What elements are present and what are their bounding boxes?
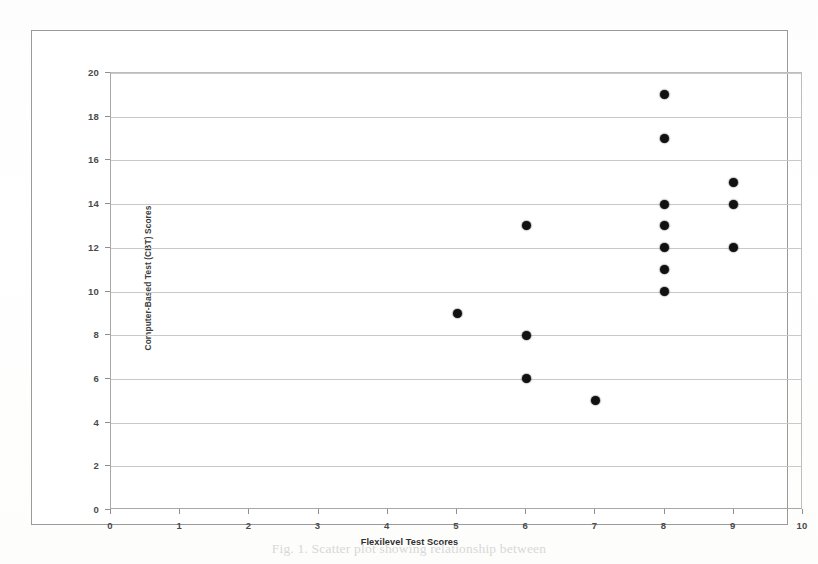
y-tick-label: 12 xyxy=(88,241,99,252)
x-tick-label: 4 xyxy=(384,520,389,531)
x-tick-mark xyxy=(664,509,665,514)
gridline-y xyxy=(111,379,801,380)
x-tick-label: 10 xyxy=(797,520,808,531)
data-point xyxy=(660,134,669,143)
x-tick-label: 3 xyxy=(315,520,320,531)
x-tick-mark xyxy=(594,509,595,514)
x-tick-mark xyxy=(802,509,803,514)
data-point xyxy=(453,309,462,318)
gridline-y xyxy=(111,117,801,118)
gridline-y xyxy=(111,466,801,467)
y-tick-mark xyxy=(105,247,110,248)
y-tick-label: 2 xyxy=(94,460,99,471)
y-tick-label: 4 xyxy=(94,416,99,427)
y-tick-mark xyxy=(105,159,110,160)
data-point xyxy=(591,396,600,405)
y-tick-label: 8 xyxy=(94,329,99,340)
y-tick-label: 16 xyxy=(88,154,99,165)
x-tick-mark xyxy=(387,509,388,514)
y-tick-mark xyxy=(105,334,110,335)
gridline-y xyxy=(111,335,801,336)
data-point xyxy=(660,200,669,209)
data-point xyxy=(729,243,738,252)
gridline-y xyxy=(111,160,801,161)
gridline-y xyxy=(111,73,801,74)
x-tick-label: 1 xyxy=(176,520,181,531)
x-tick-label: 2 xyxy=(246,520,251,531)
y-tick-mark xyxy=(105,422,110,423)
y-tick-mark xyxy=(105,378,110,379)
y-tick-mark xyxy=(105,465,110,466)
data-point xyxy=(660,287,669,296)
gridline-y xyxy=(111,423,801,424)
data-point xyxy=(660,90,669,99)
x-tick-label: 5 xyxy=(453,520,458,531)
x-tick-mark xyxy=(525,509,526,514)
data-point xyxy=(729,200,738,209)
gridline-y xyxy=(111,248,801,249)
y-tick-label: 6 xyxy=(94,372,99,383)
x-tick-mark xyxy=(733,509,734,514)
x-tick-mark xyxy=(318,509,319,514)
data-point xyxy=(522,374,531,383)
x-tick-mark xyxy=(110,509,111,514)
y-tick-label: 18 xyxy=(88,110,99,121)
scatter-plot-area xyxy=(110,72,802,509)
gridline-y xyxy=(111,204,801,205)
y-tick-mark xyxy=(105,203,110,204)
gridline-y xyxy=(111,292,801,293)
y-tick-mark xyxy=(105,72,110,73)
y-tick-mark xyxy=(105,291,110,292)
x-tick-mark xyxy=(456,509,457,514)
x-tick-label: 0 xyxy=(107,520,112,531)
x-tick-label: 8 xyxy=(661,520,666,531)
data-point xyxy=(522,331,531,340)
y-tick-label: 10 xyxy=(88,285,99,296)
data-point xyxy=(660,265,669,274)
figure-frame: Computer-Based Test (CBT) Scores 0246810… xyxy=(31,30,788,525)
data-point xyxy=(660,221,669,230)
data-point xyxy=(729,178,738,187)
y-tick-label: 0 xyxy=(94,504,99,515)
x-tick-label: 6 xyxy=(522,520,527,531)
y-tick-mark xyxy=(105,116,110,117)
x-tick-label: 9 xyxy=(730,520,735,531)
y-tick-label: 14 xyxy=(88,198,99,209)
x-tick-mark xyxy=(179,509,180,514)
data-point xyxy=(660,243,669,252)
x-tick-label: 7 xyxy=(592,520,597,531)
x-tick-mark xyxy=(248,509,249,514)
y-tick-label: 20 xyxy=(88,67,99,78)
figure-caption: Fig. 1. Scatter plot showing relationshi… xyxy=(0,541,818,557)
data-point xyxy=(522,221,531,230)
